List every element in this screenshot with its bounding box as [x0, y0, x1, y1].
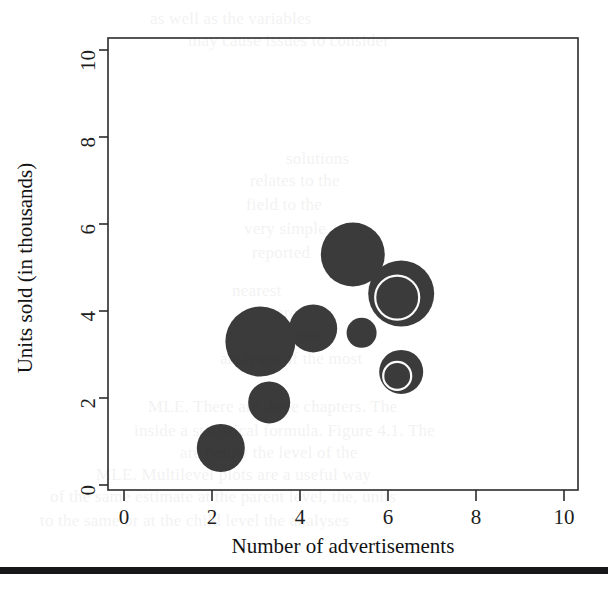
- bubble-point: [197, 424, 245, 472]
- x-tick-group-2: 2: [207, 490, 218, 529]
- bubble-series: [197, 223, 434, 473]
- bubble-disc: [379, 350, 423, 394]
- y-tick-label-10: 10: [76, 50, 100, 71]
- chart-svg: 0 2 4 6 8 10: [0, 0, 608, 590]
- x-tick-group-10: 10: [554, 490, 575, 529]
- x-tick-label-10: 10: [554, 505, 575, 529]
- y-tick-group-10: 10: [76, 50, 108, 71]
- y-axis: 0 2 4 6 8 10: [76, 50, 108, 496]
- bubble-disc: [289, 304, 337, 352]
- x-tick-label-0: 0: [119, 505, 130, 529]
- y-tick-label-8: 8: [76, 137, 100, 148]
- x-tick-group-8: 8: [471, 490, 482, 529]
- y-tick-group-0: 0: [76, 485, 108, 496]
- bubble-disc: [197, 424, 245, 472]
- bubble-point: [225, 307, 295, 377]
- y-tick-group-8: 8: [76, 137, 108, 148]
- x-tick-group-0: 0: [119, 490, 130, 529]
- x-tick-label-2: 2: [207, 505, 218, 529]
- bubble-chart-figure: as well as the variablesmay cause issues…: [0, 0, 608, 590]
- y-axis-title: Units sold (in thousands): [13, 163, 37, 374]
- x-tick-group-6: 6: [383, 490, 394, 529]
- bubble-point: [248, 381, 290, 423]
- bubble-point: [379, 350, 423, 394]
- x-tick-label-8: 8: [471, 505, 482, 529]
- bubble-disc: [225, 307, 295, 377]
- bubble-point: [347, 318, 377, 348]
- bubble-disc: [248, 381, 290, 423]
- y-tick-group-2: 2: [76, 398, 108, 409]
- y-tick-label-6: 6: [76, 224, 100, 235]
- y-tick-label-0: 0: [76, 485, 100, 496]
- x-tick-label-4: 4: [295, 505, 306, 529]
- bubble-disc: [347, 318, 377, 348]
- x-axis: 0 2 4 6 8 10: [119, 490, 575, 529]
- bubble-point: [368, 261, 434, 327]
- y-tick-label-2: 2: [76, 398, 100, 409]
- x-axis-title: Number of advertisements: [232, 534, 455, 558]
- y-tick-label-4: 4: [76, 311, 100, 322]
- y-tick-group-6: 6: [76, 224, 108, 235]
- y-tick-group-4: 4: [76, 311, 108, 322]
- bubble-point: [289, 304, 337, 352]
- x-tick-label-6: 6: [383, 505, 394, 529]
- bubble-disc: [368, 261, 434, 327]
- page-edge-bar: [0, 567, 608, 574]
- x-tick-group-4: 4: [295, 490, 306, 529]
